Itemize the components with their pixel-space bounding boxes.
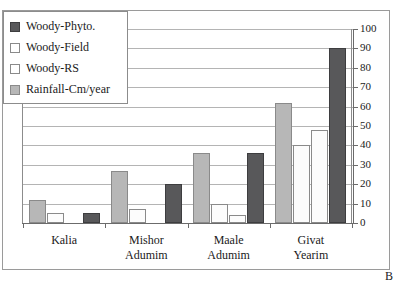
category-label-line2: Adumim <box>188 248 270 263</box>
x-separator <box>270 223 271 228</box>
legend-item: Woody-Phyto. <box>10 16 127 37</box>
bar <box>211 204 228 223</box>
y-tick-label-50: 50 <box>360 120 371 131</box>
bar <box>229 215 246 223</box>
bar <box>111 171 128 223</box>
bar <box>193 153 210 223</box>
legend-item: Woody-RS <box>10 58 127 79</box>
y-tick-label-60: 60 <box>360 101 371 112</box>
y-tick-0 <box>353 223 358 224</box>
x-separator <box>352 223 353 228</box>
legend-swatch-icon <box>10 43 20 53</box>
bar <box>293 145 310 223</box>
x-separator <box>23 223 24 228</box>
category-label: GivatYearim <box>270 233 352 263</box>
y-tick-label-30: 30 <box>360 159 371 170</box>
y-tick-label-0: 0 <box>360 217 366 228</box>
bar <box>29 200 46 223</box>
chart-figure: 1009080706050403020100 KaliaMishorAdumim… <box>0 0 395 283</box>
y-tick-label-80: 80 <box>360 62 371 73</box>
legend-swatch-icon <box>10 22 20 32</box>
y-axis-spine <box>353 29 354 223</box>
bar <box>165 184 182 223</box>
category-label-line2: Adumim <box>105 248 187 263</box>
y-tick-label-10: 10 <box>360 198 371 209</box>
y-tick-label-40: 40 <box>360 139 371 150</box>
bar <box>275 103 292 223</box>
y-tick-label-100: 100 <box>360 23 377 34</box>
y-tick-label-70: 70 <box>360 81 371 92</box>
x-separator <box>105 223 106 228</box>
legend-item: Rainfall-Cm/year <box>10 79 127 100</box>
category-label-line1: Kalia <box>51 233 77 247</box>
bar <box>129 209 146 223</box>
category-label: Kalia <box>23 233 105 248</box>
bar <box>83 213 100 223</box>
x-separator <box>188 223 189 228</box>
category-label-line1: Givat <box>298 233 325 247</box>
bar <box>247 153 264 223</box>
legend-swatch-icon <box>10 85 20 95</box>
category-label: MishorAdumim <box>105 233 187 263</box>
panel-letter: B <box>385 270 393 282</box>
legend-item-label: Rainfall-Cm/year <box>26 83 110 96</box>
category-label-line1: Maale <box>214 233 244 247</box>
category-label-line2: Yearim <box>270 248 352 263</box>
bar <box>311 130 328 223</box>
category-label-line1: Mishor <box>129 233 164 247</box>
y-tick-label-90: 90 <box>360 42 371 53</box>
legend-item-label: Woody-RS <box>26 62 79 75</box>
chart-legend: Woody-Phyto.Woody-FieldWoody-RSRainfall-… <box>3 11 128 104</box>
bar <box>47 213 64 223</box>
legend-item: Woody-Field <box>10 37 127 58</box>
legend-item-label: Woody-Field <box>26 41 89 54</box>
category-label: MaaleAdumim <box>188 233 270 263</box>
bar <box>329 48 346 223</box>
legend-swatch-icon <box>10 64 20 74</box>
y-tick-label-20: 20 <box>360 178 371 189</box>
legend-item-label: Woody-Phyto. <box>26 20 95 33</box>
